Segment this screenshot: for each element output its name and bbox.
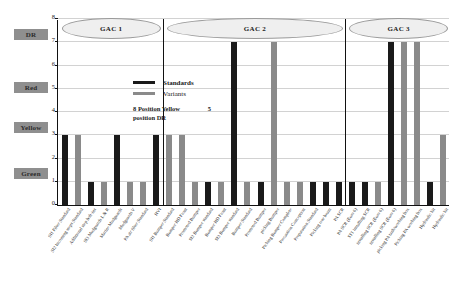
bar [310, 182, 316, 205]
bar [62, 135, 68, 205]
side-label-yellow: Yellow [14, 122, 48, 133]
group-callout-gac-3: GAC 3 [349, 18, 448, 39]
x-axis-label: HVI [153, 207, 162, 217]
bar [88, 182, 94, 205]
x-axis-label: PA air filter Standard [123, 207, 149, 242]
bar [153, 135, 159, 205]
legend-label-variants: Variants [163, 90, 186, 98]
bar [388, 42, 394, 205]
bar [114, 135, 120, 205]
bar-series [58, 20, 449, 205]
bar [297, 182, 303, 205]
bar [258, 182, 264, 205]
bar [205, 182, 211, 205]
chart-legend: Standards Variants [133, 77, 194, 99]
legend-item-standards: Standards [133, 77, 194, 88]
bar [375, 182, 381, 205]
annotation-value: 5 [208, 104, 211, 113]
side-label-red: Red [14, 82, 48, 93]
legend-swatch-variants [133, 92, 155, 95]
bar [271, 42, 277, 205]
legend-swatch-standards [133, 81, 155, 84]
plot-area: 012345678 GAC 1GAC 2GAC 3 Standards Vari… [57, 20, 449, 206]
bar [75, 135, 81, 205]
y-tick-mark [55, 18, 58, 19]
bar [218, 182, 224, 205]
bar [179, 135, 185, 205]
chart-root: DRRedYellowGreen 012345678 GAC 1GAC 2GAC… [0, 0, 457, 282]
bar [284, 182, 290, 205]
annotation-line-2: position DR [133, 114, 166, 121]
bar [323, 182, 329, 205]
group-callout-gac-1: GAC 1 [62, 18, 161, 39]
x-axis-label: PA SCR [332, 207, 345, 222]
side-label-dr: DR [14, 29, 48, 40]
bar [244, 182, 250, 205]
bar [349, 182, 355, 205]
bar [362, 182, 368, 205]
side-label-green: Green [14, 168, 48, 179]
bar [101, 182, 107, 205]
legend-item-variants: Variants [133, 88, 194, 99]
bar [166, 135, 172, 205]
bar [401, 42, 407, 205]
bar [231, 42, 237, 205]
bar [427, 182, 433, 205]
group-callout-gac-2: GAC 2 [167, 18, 344, 39]
bar [414, 42, 420, 205]
bar [140, 182, 146, 205]
chart-annotation: 8 Position Yellow 5 position DR [133, 104, 211, 122]
legend-label-standards: Standards [163, 79, 194, 87]
bar [127, 182, 133, 205]
x-axis-labels: SI1 Filter StandardSI2 Incoming steps St… [57, 207, 449, 282]
bar [192, 182, 198, 205]
annotation-line-1: 8 Position Yellow [133, 105, 180, 112]
bar [440, 135, 446, 205]
bar [336, 182, 342, 205]
